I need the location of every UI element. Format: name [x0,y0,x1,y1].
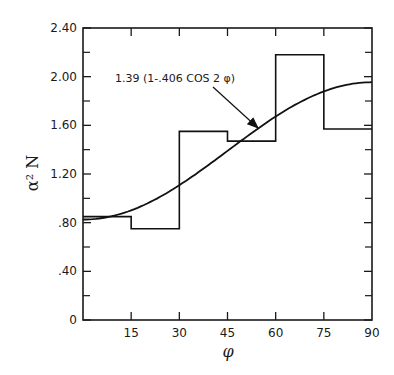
fit-annotation: 1.39 (1-.406 COS 2 φ) [115,72,235,85]
x-tick-label: 90 [364,326,379,340]
y-tick-label: 2.40 [50,21,77,35]
x-axis-label: φ [222,342,234,361]
y-axis-tick-labels: 0.40.801.201.602.002.40 [50,21,77,327]
x-tick-label: 30 [172,326,187,340]
x-axis-tick-labels: 153045607590 [124,326,380,340]
x-tick-label: 60 [268,326,283,340]
x-tick-label: 15 [124,326,139,340]
y-tick-label: 1.20 [50,167,77,181]
annotation-arrow [213,87,258,128]
y-tick-label: 1.60 [50,118,77,132]
y-tick-label: 2.00 [50,70,77,84]
y-tick-label: .40 [58,264,77,278]
fit-curve [83,82,372,219]
y-axis-label: α² N [23,155,42,191]
x-tick-label: 45 [220,326,235,340]
y-tick-label: 0 [69,313,77,327]
x-tick-label: 75 [316,326,331,340]
y-tick-label: .80 [58,216,77,230]
chart: 0.40.801.201.602.002.40 153045607590 1.3… [0,0,394,375]
